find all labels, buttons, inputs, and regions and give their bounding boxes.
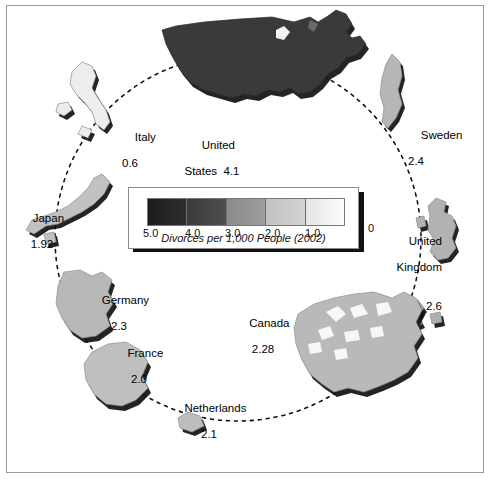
label-netherlands: Netherlands 2.1 xyxy=(168,389,250,467)
map-canada[interactable] xyxy=(288,288,438,428)
label-canada: Canada 2.28 xyxy=(232,304,294,382)
legend-band-3 xyxy=(227,199,266,225)
label-germany: Germany 2.3 xyxy=(86,281,152,359)
legend-band-2 xyxy=(266,199,305,225)
label-sweden: Sweden 2.4 xyxy=(408,116,462,194)
map-united-states[interactable] xyxy=(160,8,390,120)
legend-caption: Divorces per 1,000 People (2002) xyxy=(129,232,358,244)
legend-band-1 xyxy=(306,199,344,225)
map-italy[interactable] xyxy=(52,60,130,150)
legend-tick-zero: 0 xyxy=(368,222,374,234)
label-japan: Japan 1.92 xyxy=(16,199,68,277)
legend-color-ramp xyxy=(147,198,345,226)
figure-canvas: United States 4.1 Italy 0.6 Sweden xyxy=(0,0,491,481)
legend-band-4 xyxy=(187,199,226,225)
legend-band-5 xyxy=(148,199,187,225)
legend-panel: 5.0 4.0 3.0 2.0 1.0 Divorces per 1,000 P… xyxy=(128,187,359,249)
